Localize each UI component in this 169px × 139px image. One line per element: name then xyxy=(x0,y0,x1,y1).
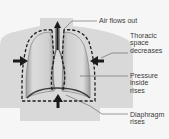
label-diaphragm-rises: Diaphragm rises xyxy=(130,111,164,126)
label-thoracic-space: Thoracic space decreases xyxy=(130,32,162,54)
exhalation-diagram: Air flows out Thoracic space decreases P… xyxy=(0,0,169,139)
label-pressure-inside: Pressure inside rises xyxy=(130,72,158,94)
label-air-flows-out: Air flows out xyxy=(99,17,137,24)
